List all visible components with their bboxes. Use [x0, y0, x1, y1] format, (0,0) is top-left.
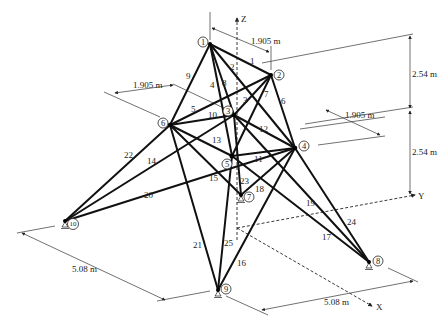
svg-text:5: 5: [225, 159, 229, 169]
svg-text:10: 10: [70, 220, 78, 228]
node-5: 5: [222, 159, 232, 169]
y-axis: [237, 195, 415, 228]
member-17: [232, 156, 369, 262]
member-13: [170, 125, 232, 156]
member-label-16: 16: [237, 258, 247, 268]
dim-254-lower: 2.54 m: [412, 147, 437, 157]
member-9: [170, 44, 210, 125]
svg-text:2: 2: [277, 70, 281, 80]
svg-text:6: 6: [161, 118, 165, 128]
svg-text:1: 1: [201, 37, 205, 47]
member-label-18: 18: [255, 184, 265, 194]
node-3: 3: [223, 106, 233, 116]
dim-1905-top: 1.905 m: [251, 36, 281, 46]
member-label-13: 13: [212, 135, 222, 145]
member-label-7: 7: [264, 89, 269, 99]
node-labels: 1 2 3 4 5 6 7 8 9 10: [68, 37, 384, 294]
node-2: 2: [274, 70, 284, 80]
member-label-25: 25: [224, 238, 234, 248]
x-axis: [237, 228, 372, 306]
node-4: 4: [299, 141, 309, 151]
member-label-10: 10: [208, 110, 218, 120]
dim-1905-left: 1.905 m: [133, 80, 163, 90]
member-label-3: 3: [243, 95, 248, 105]
z-axis-label: Z: [241, 14, 247, 24]
node-10: 10: [68, 219, 79, 230]
member-label-14: 14: [147, 156, 157, 166]
member-label-23: 23: [240, 176, 250, 186]
member-label-11: 11: [254, 154, 263, 164]
member-label-1: 1: [250, 56, 255, 66]
node-6: 6: [158, 118, 168, 128]
dim-508-left: 5.08 m: [72, 264, 97, 274]
space-truss-diagram: Z Y X 1.905 m 2.54 m 2.54 m 1.905 m 1.90…: [0, 0, 448, 328]
member-label-22: 22: [124, 150, 133, 160]
dim-254-upper: 2.54 m: [412, 69, 437, 79]
node-1: 1: [198, 37, 208, 47]
member-label-20: 20: [144, 190, 154, 200]
svg-text:7: 7: [247, 192, 251, 202]
member-14: [65, 115, 234, 221]
member-label-24: 24: [347, 217, 357, 227]
node-8: 8: [373, 256, 383, 266]
y-axis-label: Y: [418, 191, 425, 201]
member-label-8: 8: [222, 78, 227, 88]
coordinate-axes: Z Y X: [237, 14, 425, 312]
member-label-15: 15: [209, 173, 219, 183]
member-label-17: 17: [322, 232, 332, 242]
member-22: [65, 125, 170, 221]
dim-1905-right: 1.905 m: [345, 110, 375, 120]
node-9: 9: [221, 284, 231, 294]
dim-508-right: 5.08 m: [324, 297, 349, 307]
member-label-2: 2: [230, 62, 235, 72]
truss-members: [65, 44, 369, 290]
svg-text:8: 8: [376, 256, 380, 266]
node-7: 7: [244, 192, 254, 202]
member-label-5: 5: [191, 104, 196, 114]
member-7: [232, 75, 271, 156]
member-label-4: 4: [210, 80, 215, 90]
member-label-6: 6: [281, 96, 286, 106]
member-label-21: 21: [193, 240, 202, 250]
member-label-12: 12: [259, 124, 268, 134]
svg-text:3: 3: [226, 106, 230, 116]
x-axis-label: X: [376, 302, 383, 312]
member-label-9: 9: [186, 71, 191, 81]
member-label-19: 19: [306, 198, 316, 208]
svg-text:9: 9: [224, 284, 228, 294]
